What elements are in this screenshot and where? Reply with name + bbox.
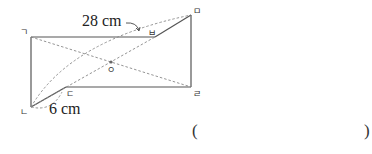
label-center: ㅇ	[107, 65, 115, 75]
label-nieun: ㄴ	[20, 107, 28, 117]
center-point	[109, 60, 112, 63]
label-mieum: ㅁ	[193, 6, 201, 16]
label-bieup: ㅂ	[148, 28, 156, 38]
label-digeut: ㄷ	[66, 89, 74, 99]
answer-paren-close: )	[364, 121, 370, 140]
label-rieul: ㄹ	[193, 89, 201, 99]
segment-bieup-mieum	[155, 15, 191, 37]
geometry-diagram: ㄱ ㄴ ㄷ ㄹ ㅁ ㅂ ㅇ 28 cm 6 cm ( )	[0, 0, 372, 154]
measurement-28cm: 28 cm	[82, 12, 122, 29]
measurement-6cm: 6 cm	[49, 100, 81, 117]
answer-paren-open: (	[192, 121, 198, 140]
label-giyeok: ㄱ	[20, 27, 28, 37]
